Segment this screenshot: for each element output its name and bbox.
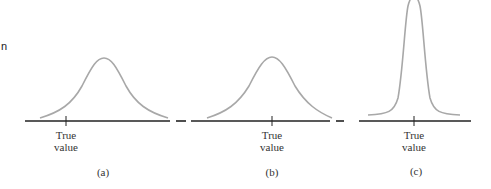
distribution-curve-b (207, 57, 332, 118)
caption-c: (c) (401, 165, 431, 177)
distribution-curve-c (368, 0, 460, 115)
figure-canvas (0, 0, 491, 189)
panel-b (176, 57, 332, 126)
caption-b: (b) (257, 166, 287, 178)
label-line-true: True (394, 129, 434, 141)
label-line-true: True (252, 129, 292, 141)
label-line-true: True (46, 129, 86, 141)
panel-a (25, 58, 170, 126)
panel-c (336, 0, 471, 126)
true-value-label-a: True value (46, 129, 86, 153)
edge-text: n (1, 40, 7, 52)
distribution-curve-a (40, 58, 168, 118)
true-value-label-b: True value (252, 129, 292, 153)
label-line-value: value (252, 141, 292, 153)
caption-a: (a) (88, 166, 118, 178)
true-value-label-c: True value (394, 129, 434, 153)
label-line-value: value (394, 141, 434, 153)
label-line-value: value (46, 141, 86, 153)
